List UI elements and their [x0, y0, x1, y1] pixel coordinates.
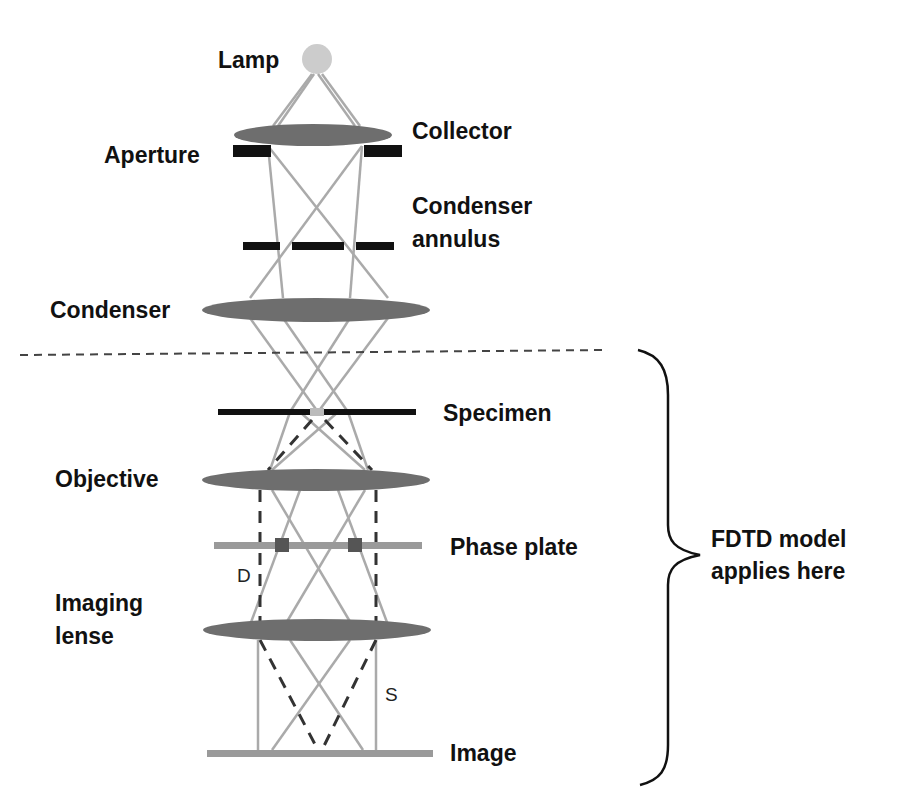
imaging-lens — [203, 619, 431, 641]
label-fdtd-2: applies here — [711, 558, 845, 585]
label-imaging-1: Imaging — [55, 590, 143, 617]
lamp-icon — [302, 44, 332, 74]
label-condenser: Condenser — [50, 297, 170, 324]
objective-lens — [202, 469, 430, 491]
label-collector: Collector — [412, 118, 512, 145]
annulus-left — [243, 242, 280, 250]
label-condenser-annulus-1: Condenser — [412, 193, 532, 220]
phase-ring-left — [275, 538, 289, 552]
annulus-right — [356, 242, 394, 250]
annulus-center — [292, 242, 344, 250]
image-plane — [207, 750, 433, 757]
label-objective: Objective — [55, 466, 159, 493]
separator-line — [20, 350, 608, 355]
label-specimen: Specimen — [443, 400, 552, 427]
condenser-lens — [202, 298, 430, 322]
phase-plate — [214, 542, 422, 549]
label-image: Image — [450, 740, 516, 767]
aperture-left — [233, 145, 271, 157]
aperture-right — [364, 145, 402, 157]
label-phase-plate: Phase plate — [450, 534, 578, 561]
phase-ring-right — [348, 538, 362, 552]
label-lamp: Lamp — [218, 47, 279, 74]
label-imaging-2: lense — [55, 623, 114, 650]
collector-lens — [234, 124, 392, 146]
label-condenser-annulus-2: annulus — [412, 226, 500, 253]
label-ray-s: S — [385, 684, 398, 706]
specimen-sample — [310, 408, 324, 416]
label-ray-d: D — [237, 565, 251, 587]
brace-icon — [638, 350, 700, 785]
label-aperture: Aperture — [104, 142, 200, 169]
label-fdtd-1: FDTD model — [711, 526, 846, 553]
